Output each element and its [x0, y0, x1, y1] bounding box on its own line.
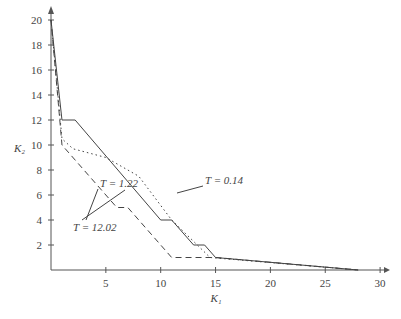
y-tick-label: 8	[37, 164, 43, 176]
y-tick-label: 12	[31, 114, 42, 126]
annotation: T = 12.02	[73, 221, 117, 233]
y-axis-label: K₂	[13, 142, 25, 154]
x-axis-label: K₁	[209, 292, 221, 304]
x-tick-label: 25	[320, 277, 332, 289]
y-tick-label: 20	[31, 14, 43, 26]
y-tick-label: 4	[37, 214, 43, 226]
y-tick-label: 18	[31, 39, 43, 51]
x-tick-label: 30	[375, 277, 387, 289]
x-tick-label: 10	[155, 277, 167, 289]
chart: 510152025302468101214161820K₁K₂T = 1.22T…	[0, 0, 401, 319]
x-tick-label: 20	[265, 277, 277, 289]
annotation: T = 0.14	[205, 174, 244, 186]
y-tick-label: 2	[37, 239, 43, 251]
annotation: T = 1.22	[100, 177, 139, 189]
y-tick-label: 6	[37, 189, 43, 201]
y-tick-label: 14	[31, 89, 43, 101]
x-tick-label: 15	[210, 277, 222, 289]
y-tick-label: 16	[31, 64, 43, 76]
y-tick-label: 10	[31, 139, 43, 151]
x-tick-label: 5	[103, 277, 109, 289]
